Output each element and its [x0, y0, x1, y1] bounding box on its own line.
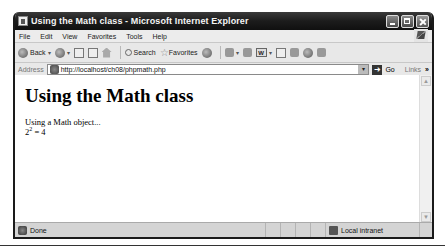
- scroll-up-icon[interactable]: ▲: [421, 76, 431, 86]
- minimize-button[interactable]: [386, 15, 399, 28]
- toolbar-separator: [220, 46, 221, 59]
- status-pane: [265, 223, 280, 237]
- zone-label: Local intranet: [341, 227, 383, 234]
- favorites-label: Favorites: [169, 49, 198, 56]
- discuss-button[interactable]: [276, 48, 286, 58]
- address-label: Address: [18, 66, 44, 73]
- vertical-scrollbar[interactable]: ▲ ▼: [419, 75, 432, 223]
- expr-result: = 4: [32, 127, 45, 137]
- back-button[interactable]: Back ▾: [18, 48, 51, 58]
- standard-toolbar: Back ▾ ▾ Search ☆ Favorites ▾ W ▾: [15, 43, 432, 63]
- menu-tools[interactable]: Tools: [126, 33, 142, 40]
- links-chevron-icon[interactable]: »: [425, 66, 429, 73]
- people-button[interactable]: [317, 48, 326, 57]
- refresh-button[interactable]: [88, 48, 98, 58]
- page-done-icon: [18, 226, 27, 235]
- forward-dropdown-icon[interactable]: ▾: [67, 49, 70, 56]
- status-pane: [310, 223, 325, 237]
- address-input[interactable]: http://localhost/ch08/phpmath.php ▾: [47, 64, 370, 75]
- browser-window: Using the Math class - Microsoft Interne…: [13, 12, 434, 239]
- forward-button[interactable]: ▾: [55, 48, 70, 58]
- stop-icon: [74, 48, 84, 58]
- print-button[interactable]: [243, 48, 252, 57]
- maximize-button[interactable]: [401, 15, 414, 28]
- search-label: Search: [134, 49, 156, 56]
- status-bar: Done Local intranet: [15, 222, 432, 237]
- history-button[interactable]: [202, 48, 212, 58]
- close-button[interactable]: [416, 15, 429, 28]
- go-button[interactable]: ➜ Go: [372, 65, 394, 75]
- status-text: Done: [30, 227, 47, 234]
- page-viewport: Using the Math class Using a Math object…: [15, 75, 432, 223]
- window-controls: [386, 15, 429, 28]
- menu-edit[interactable]: Edit: [40, 33, 52, 40]
- edit-dropdown-icon[interactable]: ▾: [269, 49, 272, 56]
- status-text-pane: Done: [15, 226, 265, 235]
- home-icon: [102, 48, 112, 58]
- research-button[interactable]: [290, 48, 299, 57]
- page-heading: Using the Math class: [25, 85, 416, 107]
- edit-button[interactable]: W ▾: [256, 48, 272, 57]
- status-panes: [265, 223, 325, 237]
- back-arrow-icon: [18, 48, 28, 58]
- address-dropdown-icon[interactable]: ▾: [358, 65, 368, 74]
- menu-favorites[interactable]: Favorites: [87, 33, 116, 40]
- history-icon: [202, 48, 212, 58]
- people-icon: [317, 48, 326, 57]
- windows-logo-icon: [414, 29, 428, 42]
- intranet-zone-icon: [329, 226, 338, 235]
- home-button[interactable]: [102, 48, 112, 58]
- resize-grip[interactable]: [419, 223, 432, 237]
- menu-view[interactable]: View: [62, 33, 77, 40]
- status-pane: [295, 223, 310, 237]
- print-icon: [243, 48, 252, 57]
- power-expression: 22 = 4: [25, 127, 416, 137]
- status-pane: [280, 223, 295, 237]
- toolbar-separator: [120, 46, 121, 59]
- intro-text: Using a Math object...: [25, 117, 416, 127]
- discuss-icon: [276, 48, 286, 58]
- divider-line: [0, 245, 445, 246]
- mail-dropdown-icon[interactable]: ▾: [236, 49, 239, 56]
- menu-help[interactable]: Help: [153, 33, 167, 40]
- menu-file[interactable]: File: [19, 33, 30, 40]
- research-icon: [290, 48, 299, 57]
- page-content: Using the Math class Using a Math object…: [25, 85, 416, 137]
- menu-bar: File Edit View Favorites Tools Help: [15, 30, 432, 43]
- favorites-star-icon: ☆: [160, 48, 169, 58]
- address-url[interactable]: http://localhost/ch08/phpmath.php: [61, 66, 359, 73]
- window-title: Using the Math class - Microsoft Interne…: [31, 16, 386, 26]
- mail-icon: [225, 48, 234, 57]
- messenger-icon: [303, 48, 313, 58]
- forward-arrow-icon: [55, 48, 65, 58]
- page-icon: [50, 65, 59, 74]
- title-bar[interactable]: Using the Math class - Microsoft Interne…: [15, 12, 432, 30]
- ie-page-icon: [18, 16, 28, 26]
- stop-button[interactable]: [74, 48, 84, 58]
- back-label: Back: [30, 49, 46, 56]
- scroll-down-icon[interactable]: ▼: [421, 212, 431, 222]
- back-dropdown-icon[interactable]: ▾: [48, 49, 51, 56]
- security-zone[interactable]: Local intranet: [325, 223, 419, 237]
- mail-button[interactable]: ▾: [225, 48, 239, 57]
- refresh-icon: [88, 48, 98, 58]
- search-icon: [125, 49, 132, 56]
- search-button[interactable]: Search: [125, 49, 156, 56]
- favorites-button[interactable]: ☆ Favorites: [160, 48, 198, 58]
- go-label: Go: [385, 66, 394, 73]
- word-icon: W: [256, 48, 267, 57]
- messenger-button[interactable]: [303, 48, 313, 58]
- go-arrow-icon: ➜: [372, 65, 382, 75]
- links-button[interactable]: Links: [405, 66, 421, 73]
